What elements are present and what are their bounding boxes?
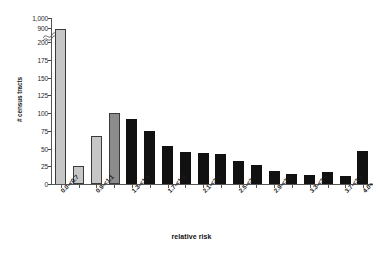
bar-slot — [212, 18, 230, 184]
bar-slot — [123, 18, 141, 184]
bar-slot — [70, 18, 88, 184]
bar-slot — [265, 18, 283, 184]
bar-slot — [283, 18, 301, 184]
bar-series — [52, 18, 372, 184]
bar[interactable] — [91, 136, 102, 184]
bar-slot — [230, 18, 248, 184]
bar-slot — [52, 18, 70, 184]
y-axis-tick-label: 100 — [37, 110, 48, 117]
x-axis-tick-mark — [79, 185, 80, 188]
x-axis-tick-labels: 0.0-<0.70.9-<1.11.3-<1.51.7-<1.92.1-<2.3… — [52, 189, 382, 239]
x-axis-title: relative risk — [0, 233, 383, 240]
y-axis-tick-label: 150 — [37, 74, 48, 81]
bar-slot — [88, 18, 106, 184]
bar-slot — [159, 18, 177, 184]
y-axis-tick-label: 1,000 — [32, 15, 48, 22]
bar[interactable] — [233, 161, 244, 184]
bar-slot — [247, 18, 265, 184]
y-axis-tick-label: 50 — [41, 145, 48, 152]
bar-slot — [141, 18, 159, 184]
x-axis-tick-mark — [114, 185, 115, 188]
y-axis-tick-label: 175 — [37, 56, 48, 63]
bar-slot — [105, 18, 123, 184]
bar-slot — [301, 18, 319, 184]
y-axis-tick-label: 125 — [37, 92, 48, 99]
bar-slot — [336, 18, 354, 184]
bar[interactable] — [162, 146, 173, 184]
bar[interactable] — [198, 153, 209, 184]
y-axis-tick-label: 25 — [41, 163, 48, 170]
bar-slot — [354, 18, 372, 184]
x-axis-tick-mark — [256, 185, 257, 188]
bar-slot — [318, 18, 336, 184]
bar[interactable] — [55, 29, 66, 184]
x-axis-tick-mark — [221, 185, 222, 188]
bar[interactable] — [126, 119, 137, 184]
x-axis-tick-mark — [328, 185, 329, 188]
x-axis-tick-mark — [150, 185, 151, 188]
plot-area — [52, 18, 372, 184]
y-axis-tick-label: 75 — [41, 127, 48, 134]
bar-slot — [176, 18, 194, 184]
x-axis-tick-mark — [185, 185, 186, 188]
bar-slot — [194, 18, 212, 184]
x-axis-tick-mark — [292, 185, 293, 188]
bar-chart: # census tracts 025507510012515017520090… — [0, 0, 383, 255]
